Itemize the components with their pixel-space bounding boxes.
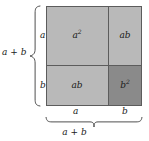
region-b-squared: b2 bbox=[108, 65, 142, 106]
region-b-squared-label: b2 bbox=[120, 81, 130, 90]
bottom-axis-total-label: a + b bbox=[0, 128, 149, 137]
region-ab-bottom-left-label: ab bbox=[71, 81, 82, 90]
region-ab-top-right: ab bbox=[108, 6, 142, 65]
region-a-squared-label: a2 bbox=[72, 31, 81, 40]
bottom-brace-icon bbox=[45, 117, 143, 128]
algebra-square-figure: a2 ab ab b2 a b a b a + b a + b bbox=[0, 0, 149, 141]
left-axis-total-label: a + b bbox=[2, 48, 26, 57]
bottom-axis-segment-a-label: a bbox=[73, 107, 78, 116]
bottom-axis-segment-b-label: b bbox=[122, 107, 128, 116]
vertical-divider bbox=[108, 6, 109, 106]
horizontal-divider bbox=[46, 65, 142, 66]
left-brace-icon bbox=[29, 5, 41, 107]
region-ab-top-right-label: ab bbox=[119, 31, 130, 40]
left-axis-segment-b-label: b bbox=[40, 81, 46, 90]
left-axis-segment-a-label: a bbox=[40, 31, 45, 40]
region-a-squared: a2 bbox=[46, 6, 108, 65]
region-ab-bottom-left: ab bbox=[46, 65, 108, 106]
